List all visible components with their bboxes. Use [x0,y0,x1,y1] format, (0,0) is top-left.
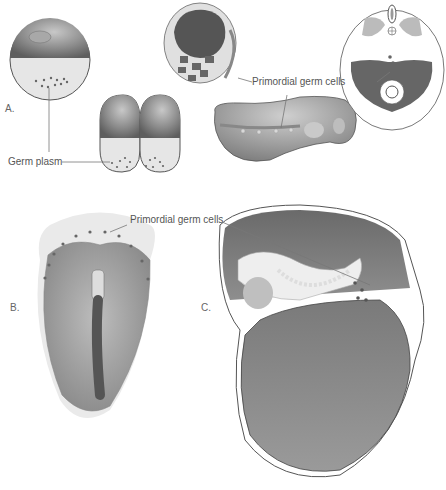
pgc-label-bc: Primordial germ cells [130,215,223,225]
mammal-embryo-section [219,205,424,477]
figure-canvas [0,0,446,490]
panel-label-b: B. [10,303,19,313]
pgc-label-a: Primordial germ cells [252,77,345,87]
chick-blastoderm [38,213,156,419]
egg-two-cell [100,95,180,172]
blastula-section [164,3,236,83]
panel-label-c: C. [201,303,211,313]
germ-plasm-label: Germ plasm [8,157,62,167]
cross-section [340,5,444,130]
egg-one-cell [10,18,90,100]
panel-label-a: A. [5,104,14,114]
